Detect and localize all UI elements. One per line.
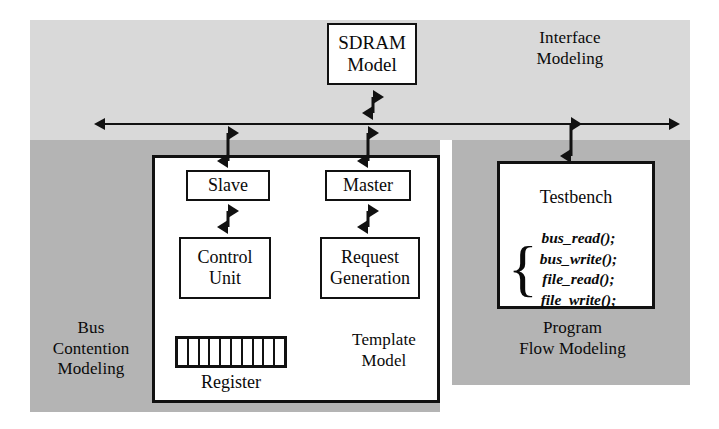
testbench-title: Testbench xyxy=(500,187,652,208)
register-cell xyxy=(275,339,284,365)
register-cell xyxy=(189,339,200,365)
register-cell xyxy=(243,339,254,365)
testbench-call: file_read(); xyxy=(540,269,618,290)
box-testbench: Testbench { bus_read();bus_write();file_… xyxy=(497,161,655,309)
testbench-call: bus_read(); xyxy=(540,228,618,249)
box-slave: Slave xyxy=(186,170,270,201)
register-cell xyxy=(232,339,243,365)
zone-label-bus-contention-modeling: Bus Contention Modeling xyxy=(32,318,150,380)
box-master: Master xyxy=(325,170,411,201)
box-label-template-model: Template Model xyxy=(330,330,438,371)
register-cell xyxy=(221,339,232,365)
testbench-call: file_write(); xyxy=(540,290,618,311)
zone-label-interface-modeling: Interface Modeling xyxy=(470,28,670,69)
register-cell xyxy=(264,339,275,365)
register-cell xyxy=(210,339,221,365)
testbench-body: { bus_read();bus_write();file_read();fil… xyxy=(500,228,652,310)
testbench-call-list: bus_read();bus_write();file_read();file_… xyxy=(540,228,618,310)
box-label-register: Register xyxy=(163,372,299,393)
register-cell xyxy=(178,339,189,365)
box-control-unit: Control Unit xyxy=(179,237,271,299)
box-request-generation: Request Generation xyxy=(320,237,420,299)
register-cell xyxy=(200,339,211,365)
testbench-call: bus_write(); xyxy=(540,249,618,270)
box-register xyxy=(175,336,287,368)
register-cell xyxy=(254,339,265,365)
box-sdram-model: SDRAM Model xyxy=(327,23,417,85)
curly-brace-icon: { xyxy=(508,244,538,292)
diagram-canvas: Interface Modeling Bus Contention Modeli… xyxy=(0,0,719,429)
